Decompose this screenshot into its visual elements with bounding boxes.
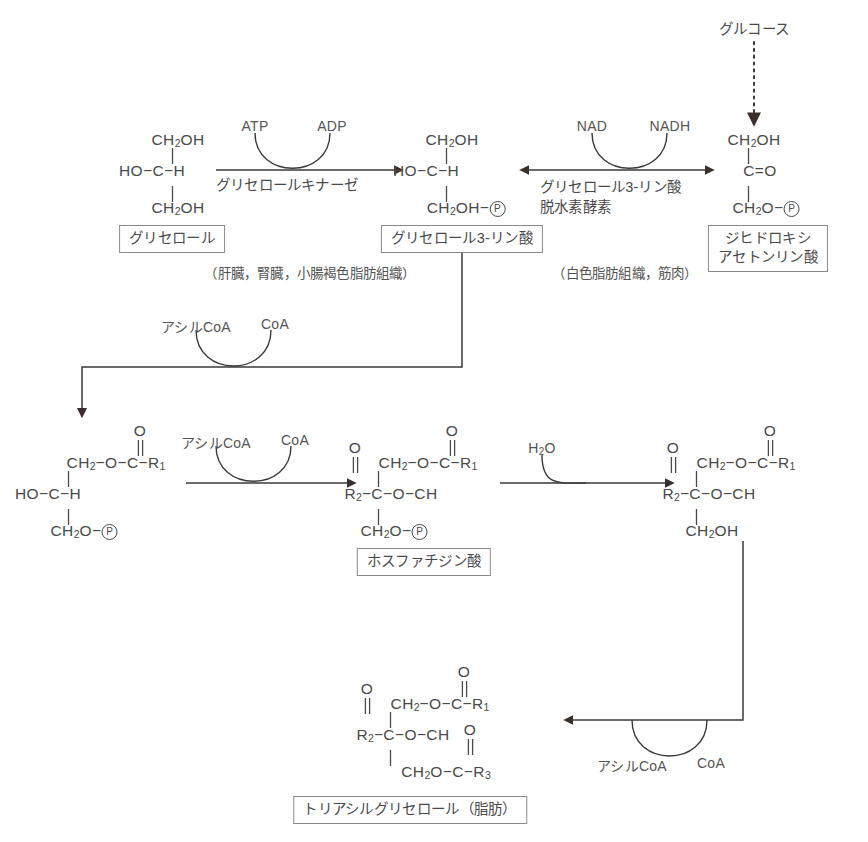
enzyme-g3p-dehydrogenase-line1: グリセロール3-リン酸 [540,179,681,195]
dag-carbonyl-oxygen-right: O [764,423,776,439]
box-glycerol: グリセロール [119,225,225,253]
dag-structure-middle: R2−C−O−CH [662,486,755,503]
dhap-structure-bottom: CH2O−P [733,200,800,217]
g3p-structure-middle: HO−C−H [393,163,459,179]
enzyme-glycerol-kinase: グリセロールキナーゼ [216,176,358,196]
glycerol-structure-top: CH2OH [151,132,204,149]
tissue-glycerol: （肝臓，腎臓，小腸褐色脂肪組織） [204,262,415,282]
box-dhap-line2: アセトンリン酸 [718,249,818,265]
lysopa-carbonyl-oxygen: O [134,423,146,439]
pa-structure-bottom: CH2O−P [361,523,428,540]
box-phosphatidic-acid: ホスファチジン酸 [357,548,491,576]
cofactor-acyl-coa-3: アシルCoA [597,755,667,775]
dhap-structure-top: CH2OH [727,132,780,149]
tag-carbonyl-oxygen-bottom: O [464,722,476,738]
tag-double-bond-bottom [465,739,476,755]
box-dhap-line1: ジヒドロキシ [725,230,811,246]
cofactor-atp: ATP [241,118,268,134]
dag-carbonyl-oxygen-left: O [667,440,679,456]
cofactor-coa-3: CoA [697,755,725,771]
g3p-structure-bottom: CH2OH−P [427,200,506,217]
cofactor-coa-2: CoA [281,432,309,448]
cofactor-coa-1: CoA [261,316,289,332]
cofactor-nadh: NADH [650,118,691,134]
cofactor-acyl-coa-1: アシルCoA [161,316,231,336]
dhap-structure-middle: C=O [743,163,777,179]
lysopa-structure-top: CH2−O−C−R1 [67,455,166,472]
tag-carbonyl-oxygen-right: O [458,664,470,680]
pa-double-bond-left [350,457,361,473]
node-glucose-label: グルコース [719,17,790,38]
cofactor-adp: ADP [317,118,347,134]
tag-carbonyl-oxygen-left: O [361,681,373,697]
dag-structure-bottom: CH2OH [685,523,738,540]
enzyme-g3p-dehydrogenase: グリセロール3-リン酸 脱水素酵素 [540,178,681,217]
box-dhap: ジヒドロキシ アセトンリン酸 [708,225,828,272]
g3p-structure-top: CH2OH [425,132,478,149]
tag-structure-middle: R2−C−O−CH [356,727,449,744]
cofactor-acyl-coa-2: アシルCoA [181,432,251,452]
tag-structure-bottom: CH2O−C−R3 [401,764,490,781]
pa-structure-middle: R2−C−O−CH [344,486,437,503]
box-triacylglycerol: トリアシルグリセロール（脂肪） [293,796,527,824]
glycerol-structure-middle: HO−C−H [119,163,185,179]
box-glycerol-3-phosphate: グリセロール3-リン酸 [381,225,543,253]
pa-carbonyl-oxygen-right: O [446,423,458,439]
tag-structure-top: CH2−O−C−R1 [391,696,490,713]
tag-bond-lower [388,750,393,766]
cofactor-nad: NAD [577,118,607,134]
dag-double-bond-left [668,457,679,473]
pa-carbonyl-oxygen-left: O [349,440,361,456]
enzyme-g3p-dehydrogenase-line2: 脱水素酵素 [540,199,611,215]
lysopa-structure-middle: HO−C−H [15,486,81,502]
pathway-connectors [0,0,868,842]
pathway-diagram-canvas: グルコース CH2OH HO−C−H CH2OH グリセロール （肝臓，腎臓，小… [0,0,868,842]
pa-structure-top: CH2−O−C−R1 [379,455,478,472]
glycerol-structure-bottom: CH2OH [151,200,204,217]
lysopa-structure-bottom: CH2O−P [51,523,118,540]
tissue-glycerol-3-phosphate: （白色脂肪組織，筋肉） [552,262,697,282]
tag-double-bond-left [362,698,373,714]
dag-structure-top: CH2−O−C−R1 [697,455,796,472]
cofactor-water: H2O [528,440,556,457]
